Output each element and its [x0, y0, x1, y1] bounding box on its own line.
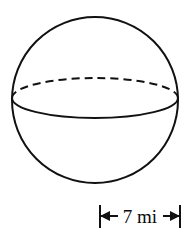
- sphere-diagram: 7 mi: [0, 0, 190, 234]
- dimension-label: 7 mi: [123, 206, 157, 227]
